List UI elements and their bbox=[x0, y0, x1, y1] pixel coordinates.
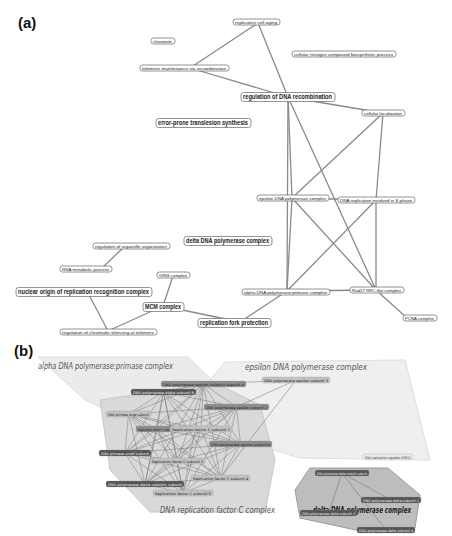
protein-node[interactable]: DNA polymerase epsilon subunit 3 bbox=[262, 377, 330, 383]
node-label: Replication factor C subunit 2 bbox=[172, 428, 230, 432]
node-label: Replication factor C subunit 3 bbox=[152, 460, 203, 464]
region-label-rfc: DNA replication factor C complex bbox=[160, 505, 275, 515]
protein-node[interactable]: Replication factor C subunit 5 bbox=[153, 490, 213, 496]
protein-node[interactable]: DNA polymerase epsilon subunit 4 bbox=[209, 441, 272, 447]
protein-node[interactable]: DNA primase large subunit bbox=[106, 411, 151, 417]
protein-node[interactable]: DNA primase small subunit bbox=[99, 450, 151, 456]
protein-node[interactable]: DNA polymerase delta subunit 4 bbox=[357, 527, 415, 533]
protein-node[interactable]: DNA polymerase delta catalytic subunit bbox=[315, 470, 369, 476]
protein-node[interactable]: Replication factor C subunit 2 bbox=[170, 426, 232, 432]
node-label: DNA polymerase delta catalytic subunit bbox=[317, 472, 367, 476]
node-label: Replication factor C subunit 5 bbox=[155, 492, 211, 496]
node-label: DNA polymerase delta subunit 3 bbox=[302, 512, 355, 516]
protein-node[interactable]: DNA polymerase alpha subunit B bbox=[131, 389, 196, 395]
protein-node[interactable]: DNA polymerase alpha catalytic subunit bbox=[106, 481, 184, 487]
node-label: DNA polymerase epsilon subunit 2 bbox=[206, 406, 267, 410]
node-label: DNA polymerase delta subunit 2 bbox=[363, 499, 419, 503]
node-label: DNA polymerase epsilon catalytic subunit… bbox=[163, 383, 245, 387]
node-label: DNA polymerase epsilon subunit 4 bbox=[211, 443, 271, 447]
protein-node[interactable]: DNA replication regulator DPB11 bbox=[363, 454, 413, 460]
region-label-alpha: alpha DNA polymerase:primase complex bbox=[38, 361, 173, 371]
node-label: DNA replication regulator DPB11 bbox=[365, 456, 411, 460]
protein-node[interactable]: DNA polymerase delta subunit 3 bbox=[300, 510, 357, 516]
protein-node[interactable]: Replication factor C subunit 4 bbox=[191, 475, 250, 481]
panel-b-network: alpha DNA polymerase:primase complexepsi… bbox=[0, 0, 452, 536]
node-label: DNA polymerase epsilon subunit 3 bbox=[264, 379, 328, 383]
node-label: DNA primase large subunit bbox=[108, 413, 150, 417]
protein-node[interactable]: Replication factor C subunit 3 bbox=[150, 458, 205, 464]
node-label: DNA primase small subunit bbox=[101, 452, 150, 456]
protein-node[interactable]: DNA polymerase epsilon subunit 2 bbox=[204, 404, 269, 410]
protein-node[interactable]: DNA polymerase epsilon catalytic subunit… bbox=[161, 381, 246, 387]
node-label: DNA polymerase alpha subunit B bbox=[133, 391, 195, 395]
node-label: DNA polymerase delta subunit 4 bbox=[359, 529, 414, 533]
protein-node[interactable]: DNA polymerase delta subunit 2 bbox=[361, 497, 421, 503]
node-label: DNA polymerase alpha catalytic subunit bbox=[108, 483, 183, 487]
region-label-epsilon: epsilon DNA polymerase complex bbox=[245, 362, 367, 372]
node-label: Replication factor C subunit 4 bbox=[193, 477, 249, 481]
